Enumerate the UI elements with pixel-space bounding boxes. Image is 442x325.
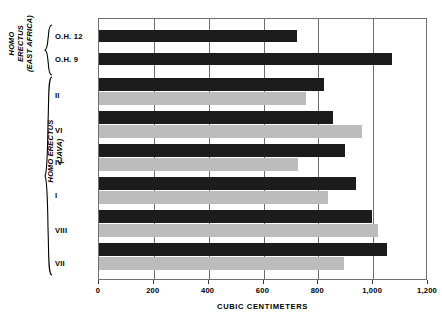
x-axis-title: CUBIC CENTIMETERS: [98, 302, 427, 311]
x-tick-label-200: 200: [133, 286, 173, 295]
bar-ii-dark: [99, 78, 324, 91]
x-tick-1000: [372, 280, 373, 284]
bar-viii-light: [99, 224, 378, 237]
bar-series-container: [99, 19, 426, 279]
x-tick-600: [263, 280, 264, 284]
x-tick-label-0: 0: [78, 286, 118, 295]
bar-i-light: [99, 191, 328, 204]
x-tick-0: [98, 280, 99, 284]
bar-viii-dark: [99, 210, 372, 223]
x-tick-800: [317, 280, 318, 284]
bar-vi-light: [99, 125, 362, 138]
x-tick-400: [208, 280, 209, 284]
specimen-label-oh12: O.H. 12: [52, 32, 94, 41]
specimen-label-i: I: [52, 191, 94, 200]
brace-java: [44, 76, 53, 276]
bar-vii-light: [99, 257, 344, 270]
specimen-label-iv: IV: [52, 158, 94, 167]
x-tick-label-600: 600: [243, 286, 283, 295]
x-tick-200: [153, 280, 154, 284]
bar-vi-dark: [99, 111, 333, 124]
x-tick-label-400: 400: [188, 286, 228, 295]
x-tick-1200: [427, 280, 428, 284]
specimen-label-vi: VI: [52, 126, 94, 135]
bar-ii-light: [99, 92, 306, 105]
specimen-label-vii: VII: [52, 259, 94, 268]
bar-oh9-dark: [99, 53, 392, 66]
x-tick-label-1000: 1,000: [352, 286, 392, 295]
specimen-label-viii: VIII: [52, 226, 94, 235]
brain-size-bar-chart: HOMO ERECTUS (EAST AFRICA) HOMO ERECTUS …: [0, 0, 442, 325]
x-tick-label-800: 800: [297, 286, 337, 295]
bar-iv-light: [99, 158, 298, 171]
x-tick-label-1200: 1,200: [407, 286, 442, 295]
plot-area: [98, 18, 427, 280]
bar-oh12-dark: [99, 30, 297, 43]
specimen-label-oh9: O.H. 9: [52, 55, 94, 64]
specimen-label-ii: II: [52, 91, 94, 100]
bar-iv-dark: [99, 144, 345, 157]
bar-i-dark: [99, 177, 356, 190]
bar-vii-dark: [99, 243, 387, 256]
group-title-east-africa: HOMO ERECTUS (EAST AFRICA): [7, 13, 34, 75]
